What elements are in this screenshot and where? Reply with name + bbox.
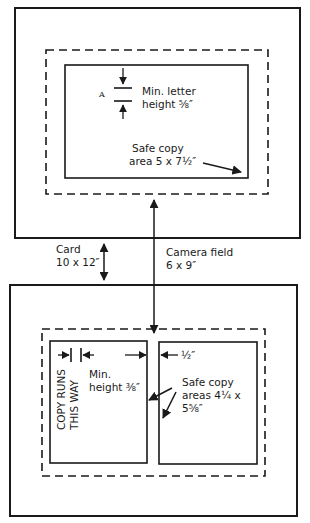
min-letter-label-line1: Min. letter bbox=[142, 85, 196, 97]
top-card: A Min. letter height ⅝″ Safe copy area 5… bbox=[15, 8, 300, 238]
safe-copy-label-line2: area 5 x 7½″ bbox=[129, 155, 196, 167]
top-card-outline bbox=[15, 8, 300, 238]
safe-copy-areas-line1: Safe copy bbox=[182, 376, 234, 388]
letter-marker: A bbox=[98, 90, 105, 99]
copy-direction-line1: COPY RUNS bbox=[55, 369, 67, 430]
copy-direction-line2: THIS WAY bbox=[68, 379, 80, 431]
card-label-line1: Card bbox=[56, 243, 81, 255]
safe-copy-label-line1: Safe copy bbox=[132, 142, 184, 154]
safe-copy-left-arrow-icon bbox=[149, 388, 172, 400]
camera-field-label-line2: 6 x 9″ bbox=[166, 259, 196, 271]
min-height-label-line1: Min. bbox=[89, 368, 111, 380]
camera-field-label-line1: Camera field bbox=[166, 246, 233, 258]
gap-label: ½″ bbox=[181, 349, 195, 361]
safe-copy-areas-line3: 5⅝″ bbox=[182, 402, 203, 414]
letter-height-indicator bbox=[114, 68, 132, 119]
safe-copy-arrow-icon bbox=[203, 163, 241, 172]
middle-annotations: Card 10 x 12″ Camera field 6 x 9″ bbox=[56, 200, 233, 333]
card-layout-diagram: A Min. letter height ⅝″ Safe copy area 5… bbox=[0, 0, 310, 523]
safe-copy-right-arrow-icon bbox=[163, 392, 176, 418]
safe-copy-areas-line2: areas 4¼ x bbox=[182, 389, 241, 401]
card-label-line2: 10 x 12″ bbox=[56, 256, 100, 268]
right-safe-copy-area bbox=[159, 342, 257, 464]
top-camera-field-dashed bbox=[46, 50, 268, 194]
min-height-indicator bbox=[58, 348, 94, 362]
min-height-label-line2: height ⅜″ bbox=[89, 381, 140, 393]
min-letter-label-line2: height ⅝″ bbox=[142, 98, 193, 110]
